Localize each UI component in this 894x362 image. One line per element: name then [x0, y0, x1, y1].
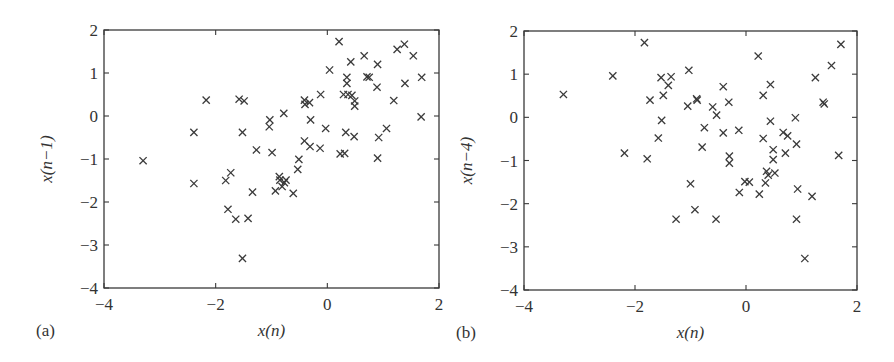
- x-marker-icon: [709, 103, 716, 110]
- x-marker-icon: [232, 216, 239, 223]
- x-marker-icon: [726, 159, 733, 166]
- x-marker-icon: [720, 83, 727, 90]
- panel-a-scatter: −4−202−4−3−2−1012x(n)x(n−1)(a): [36, 21, 443, 340]
- x-marker-icon: [641, 39, 648, 46]
- x-marker-icon: [266, 116, 273, 123]
- x-marker-icon: [771, 169, 778, 176]
- y-tick-label: 2: [90, 21, 99, 40]
- x-marker-icon: [691, 206, 698, 213]
- x-marker-icon: [755, 52, 762, 59]
- x-marker-icon: [306, 143, 313, 150]
- x-marker-icon: [343, 74, 350, 81]
- x-tick-label: 2: [435, 295, 444, 314]
- x-marker-icon: [646, 96, 653, 103]
- y-tick-label: −4: [80, 279, 99, 298]
- x-marker-icon: [658, 117, 665, 124]
- x-marker-icon: [280, 110, 287, 117]
- x-marker-icon: [341, 150, 348, 157]
- x-marker-icon: [418, 113, 425, 120]
- x-marker-icon: [792, 114, 799, 121]
- x-marker-icon: [644, 155, 651, 162]
- x-marker-icon: [665, 82, 672, 89]
- x-marker-icon: [224, 206, 231, 213]
- y-tick-label: −3: [500, 238, 518, 257]
- x-marker-icon: [253, 146, 260, 153]
- x-marker-icon: [418, 74, 425, 81]
- panel-label: (a): [36, 321, 55, 340]
- x-marker-icon: [801, 255, 808, 262]
- x-marker-icon: [222, 177, 229, 184]
- x-tick-label: −2: [207, 295, 225, 314]
- x-marker-icon: [784, 132, 791, 139]
- x-marker-icon: [401, 80, 408, 87]
- x-marker-icon: [735, 127, 742, 134]
- plot-frame: [104, 30, 439, 288]
- panel-label: (b): [456, 323, 476, 342]
- x-marker-icon: [361, 52, 368, 59]
- x-marker-icon: [282, 176, 289, 183]
- x-axis-label: x(n): [257, 321, 286, 340]
- x-marker-icon: [249, 189, 256, 196]
- x-marker-icon: [410, 52, 417, 59]
- x-marker-icon: [266, 123, 273, 130]
- x-marker-icon: [307, 116, 314, 123]
- x-marker-icon: [667, 73, 674, 80]
- x-marker-icon: [770, 156, 777, 163]
- x-marker-icon: [756, 191, 763, 198]
- x-marker-icon: [699, 144, 706, 151]
- y-axis-label: x(n−4): [457, 136, 476, 185]
- x-marker-icon: [272, 187, 279, 194]
- panel-b-scatter: −4−202−4−3−2−1012x(n)x(n−4)(b): [456, 22, 861, 342]
- x-marker-icon: [351, 133, 358, 140]
- x-marker-icon: [684, 103, 691, 110]
- y-tick-label: 0: [90, 107, 99, 126]
- x-tick-label: 0: [323, 295, 332, 314]
- scatter-plots: −4−202−4−3−2−1012x(n)x(n−1)(a) −4−202−4−…: [0, 0, 894, 362]
- x-tick-label: 0: [742, 297, 751, 316]
- y-tick-label: 2: [510, 22, 519, 41]
- x-marker-icon: [760, 92, 767, 99]
- x-marker-icon: [560, 91, 567, 98]
- x-marker-icon: [239, 255, 246, 262]
- x-marker-icon: [770, 146, 777, 153]
- x-marker-icon: [621, 150, 628, 157]
- y-tick-label: −1: [500, 152, 518, 171]
- x-marker-icon: [835, 152, 842, 159]
- x-marker-icon: [326, 66, 333, 73]
- y-tick-label: −2: [500, 195, 518, 214]
- x-marker-icon: [347, 58, 354, 65]
- x-marker-icon: [317, 91, 324, 98]
- x-axis-label: x(n): [676, 323, 705, 342]
- x-marker-icon: [374, 155, 381, 162]
- x-marker-icon: [343, 80, 350, 87]
- x-marker-icon: [322, 125, 329, 132]
- x-marker-icon: [726, 153, 733, 160]
- x-marker-icon: [780, 129, 787, 136]
- x-marker-icon: [374, 61, 381, 68]
- x-marker-icon: [687, 180, 694, 187]
- y-tick-label: −1: [80, 150, 98, 169]
- x-marker-icon: [725, 99, 732, 106]
- x-marker-icon: [335, 38, 342, 45]
- x-marker-icon: [701, 124, 708, 131]
- x-marker-icon: [394, 46, 401, 53]
- x-marker-icon: [720, 129, 727, 136]
- x-marker-icon: [375, 134, 382, 141]
- x-marker-icon: [295, 156, 302, 163]
- x-marker-icon: [390, 97, 397, 104]
- x-marker-icon: [808, 193, 815, 200]
- x-marker-icon: [767, 118, 774, 125]
- x-marker-icon: [351, 103, 358, 110]
- x-marker-icon: [794, 185, 801, 192]
- x-marker-icon: [736, 189, 743, 196]
- x-marker-icon: [793, 216, 800, 223]
- x-marker-icon: [190, 129, 197, 136]
- y-tick-label: −4: [500, 281, 519, 300]
- x-marker-icon: [373, 84, 380, 91]
- x-marker-icon: [401, 41, 408, 48]
- x-marker-icon: [660, 92, 667, 99]
- x-marker-icon: [227, 169, 234, 176]
- y-axis-label: x(n−1): [37, 135, 56, 184]
- x-marker-icon: [767, 81, 774, 88]
- x-marker-icon: [672, 216, 679, 223]
